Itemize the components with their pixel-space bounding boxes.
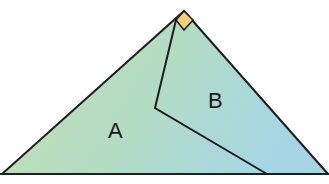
triangle-diagram: A B — [0, 0, 329, 184]
outer-triangle — [2, 11, 328, 174]
region-label-a: A — [108, 118, 123, 143]
region-label-b: B — [208, 88, 223, 113]
